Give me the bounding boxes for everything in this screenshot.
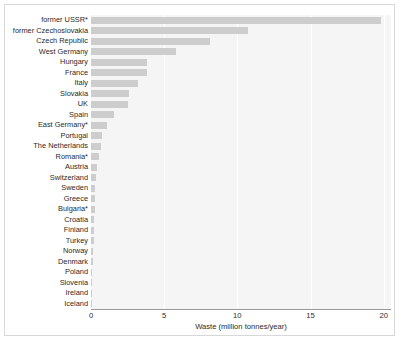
- bar: [91, 300, 92, 307]
- bar-row: [91, 152, 391, 163]
- bar: [91, 111, 114, 118]
- category-label: Portugal: [5, 131, 88, 142]
- bar: [91, 269, 92, 276]
- category-label: Finland: [5, 225, 88, 236]
- bar-row: [91, 68, 391, 79]
- category-label: Iceland: [5, 299, 88, 310]
- bar: [91, 48, 176, 55]
- bar: [91, 17, 381, 24]
- category-label: Romania*: [5, 152, 88, 163]
- chart-figure: former USSR*former CzechoslovakiaCzech R…: [4, 4, 395, 336]
- bar: [91, 101, 128, 108]
- category-label: Slovakia: [5, 89, 88, 100]
- bar-row: [91, 78, 391, 89]
- bar-row: [91, 99, 391, 110]
- category-label: Spain: [5, 110, 88, 121]
- bar: [91, 122, 107, 129]
- bar: [91, 174, 96, 181]
- bar-row: [91, 173, 391, 184]
- bar: [91, 80, 138, 87]
- bar: [91, 69, 147, 76]
- bar-row: [91, 215, 391, 226]
- bar: [91, 216, 94, 223]
- category-label: Poland: [5, 267, 88, 278]
- bar: [91, 59, 147, 66]
- category-label: Norway: [5, 246, 88, 257]
- category-label: Czech Republic: [5, 36, 88, 47]
- bar: [91, 290, 92, 297]
- bar-row: [91, 278, 391, 289]
- bar-row: [91, 204, 391, 215]
- category-label: Italy: [5, 78, 88, 89]
- category-label: France: [5, 68, 88, 79]
- x-tick-label: 20: [379, 311, 387, 320]
- bar-row: [91, 183, 391, 194]
- category-label: Sweden: [5, 183, 88, 194]
- bar-row: [91, 299, 391, 310]
- category-label: Switzerland: [5, 173, 88, 184]
- category-label: Croatia: [5, 215, 88, 226]
- category-axis-labels: former USSR*former CzechoslovakiaCzech R…: [5, 15, 88, 309]
- x-tick-label: 15: [306, 311, 314, 320]
- bar-row: [91, 47, 391, 58]
- bar-row: [91, 26, 391, 37]
- x-tick-label: 10: [233, 311, 241, 320]
- bar: [91, 27, 248, 34]
- bar: [91, 237, 94, 244]
- category-label: Bulgaria*: [5, 204, 88, 215]
- category-label: Ireland: [5, 288, 88, 299]
- bar-row: [91, 225, 391, 236]
- category-label: former USSR*: [5, 15, 88, 26]
- bar: [91, 279, 92, 286]
- category-label: Greece: [5, 194, 88, 205]
- category-label: Turkey: [5, 236, 88, 247]
- category-label: former Czechoslovakia: [5, 26, 88, 37]
- bar-row: [91, 257, 391, 268]
- category-label: The Netherlands: [5, 141, 88, 152]
- category-label: Denmark: [5, 257, 88, 268]
- category-label: Austria: [5, 162, 88, 173]
- plot-area: [91, 15, 391, 310]
- x-tick-label: 0: [89, 311, 93, 320]
- bar-row: [91, 194, 391, 205]
- category-label: Hungary: [5, 57, 88, 68]
- bar: [91, 206, 95, 213]
- bar-row: [91, 141, 391, 152]
- x-axis-title: Waste (million tonnes/year): [91, 322, 391, 331]
- bar: [91, 164, 97, 171]
- bar: [91, 143, 101, 150]
- bar-row: [91, 267, 391, 278]
- bar-row: [91, 288, 391, 299]
- category-label: UK: [5, 99, 88, 110]
- bar: [91, 38, 210, 45]
- bar: [91, 132, 102, 139]
- bar: [91, 185, 95, 192]
- bar: [91, 90, 129, 97]
- bar-row: [91, 36, 391, 47]
- bar: [91, 248, 93, 255]
- bar: [91, 258, 93, 265]
- bar-row: [91, 110, 391, 121]
- bar: [91, 153, 99, 160]
- bar-row: [91, 57, 391, 68]
- bar-row: [91, 15, 391, 26]
- bar-row: [91, 246, 391, 257]
- bar-row: [91, 131, 391, 142]
- category-label: East Germany*: [5, 120, 88, 131]
- bar-row: [91, 120, 391, 131]
- bar: [91, 227, 94, 234]
- bar: [91, 195, 95, 202]
- category-label: Slovenia: [5, 278, 88, 289]
- x-tick-label: 5: [162, 311, 166, 320]
- category-label: West Germany: [5, 47, 88, 58]
- bar-row: [91, 236, 391, 247]
- bar-row: [91, 89, 391, 100]
- bar-row: [91, 162, 391, 173]
